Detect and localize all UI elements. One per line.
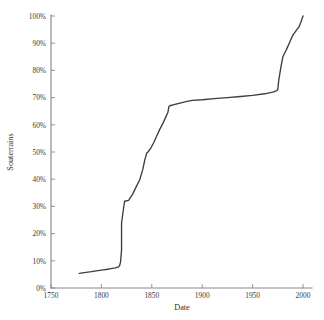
y-tick-label: 20%	[32, 229, 46, 238]
x-tick-label: 2000	[296, 291, 311, 300]
y-tick-label: 30%	[32, 202, 46, 211]
x-axis-ticks	[51, 284, 303, 288]
y-tick-label: 60%	[32, 121, 46, 130]
x-tick-label: 1750	[44, 291, 59, 300]
x-tick-label: 1950	[245, 291, 260, 300]
y-axis-ticks	[51, 16, 55, 288]
y-tick-label: 90%	[32, 39, 46, 48]
y-tick-label: 80%	[32, 66, 46, 75]
x-tick-label: 1900	[195, 291, 210, 300]
y-axis-group: 0%10%20%30%40%50%60%70%80%90%100%	[29, 12, 55, 293]
x-tick-label: 1800	[94, 291, 109, 300]
x-axis-title: Date	[174, 303, 190, 312]
x-tick-label: 1850	[144, 291, 159, 300]
x-axis-group: 175018001850190019502000	[44, 284, 312, 300]
data-series-group	[79, 16, 303, 273]
y-tick-label: 40%	[32, 175, 46, 184]
chart-figure: 0%10%20%30%40%50%60%70%80%90%100% 175018…	[0, 0, 324, 320]
x-axis-tick-labels: 175018001850190019502000	[44, 291, 311, 300]
y-axis-tick-labels: 0%10%20%30%40%50%60%70%80%90%100%	[29, 12, 46, 293]
data-line-souterrains	[79, 16, 303, 273]
y-tick-label: 100%	[29, 12, 46, 21]
line-chart-svg: 0%10%20%30%40%50%60%70%80%90%100% 175018…	[0, 0, 324, 320]
y-tick-label: 50%	[32, 148, 46, 157]
y-axis-title: Souterrains	[6, 133, 15, 170]
y-tick-label: 10%	[32, 257, 46, 266]
y-tick-label: 70%	[32, 93, 46, 102]
